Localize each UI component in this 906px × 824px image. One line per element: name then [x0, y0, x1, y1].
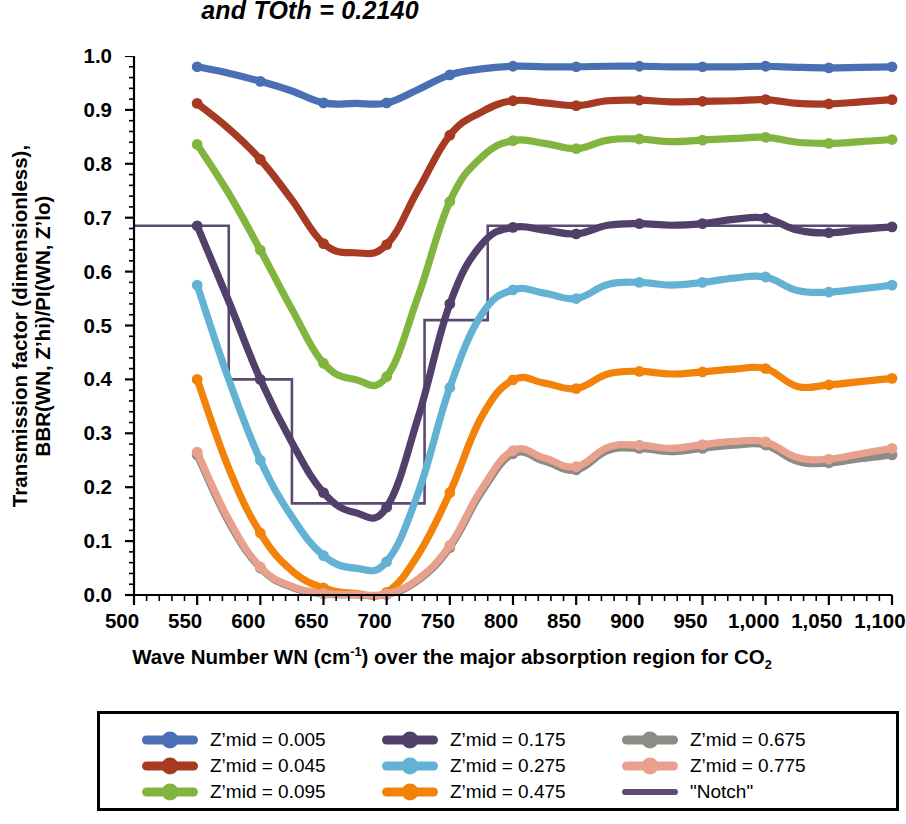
series-marker	[887, 221, 898, 232]
series-marker	[760, 437, 771, 448]
series-marker	[192, 447, 203, 458]
legend-item[interactable]: Z’mid = 0.095	[142, 780, 382, 804]
series-marker	[571, 383, 582, 394]
x-tick-label: 850	[547, 609, 581, 633]
series-marker	[381, 371, 392, 382]
x-tick-label: 1,100	[854, 609, 905, 633]
legend-label: Z’mid = 0.775	[690, 755, 806, 777]
x-tick-label: 650	[294, 609, 328, 633]
series-marker	[192, 61, 203, 72]
series-line-notch	[134, 226, 892, 504]
series-marker	[571, 61, 582, 72]
y-tick-label: 0.1	[60, 529, 112, 553]
series-marker	[760, 363, 771, 374]
series-marker	[760, 94, 771, 105]
legend-column: Z’mid = 0.175Z’mid = 0.275Z’mid = 0.475	[382, 728, 622, 806]
series-marker	[192, 139, 203, 150]
x-tick-label: 600	[231, 609, 265, 633]
series-marker	[760, 61, 771, 72]
series-marker	[381, 556, 392, 567]
series-marker	[508, 95, 519, 106]
legend-swatch	[622, 729, 678, 751]
y-tick-label: 0.0	[60, 583, 112, 607]
series-marker	[192, 280, 203, 291]
series-marker	[697, 366, 708, 377]
legend-marker-icon	[162, 732, 179, 749]
x-tick-label: 500	[105, 609, 139, 633]
series-marker	[571, 143, 582, 154]
series-marker	[571, 100, 582, 111]
chart-title: and TOth = 0.2140	[0, 0, 620, 25]
legend-item[interactable]: "Notch"	[622, 780, 862, 804]
series-marker	[823, 379, 834, 390]
legend-columns: Z’mid = 0.005Z’mid = 0.045Z’mid = 0.095Z…	[142, 728, 862, 806]
legend: Z’mid = 0.005Z’mid = 0.045Z’mid = 0.095Z…	[97, 711, 899, 811]
legend-marker-icon	[402, 758, 419, 775]
legend-marker-icon	[162, 758, 179, 775]
y-tick-label: 0.5	[60, 314, 112, 338]
legend-item[interactable]: Z’mid = 0.005	[142, 728, 382, 752]
series-marker	[444, 69, 455, 80]
x-tick-label: 950	[673, 609, 707, 633]
series-marker	[697, 218, 708, 229]
legend-marker-icon	[402, 732, 419, 749]
x-axis-title: Wave Number WN (cm-1) over the major abs…	[0, 644, 904, 672]
legend-swatch	[382, 781, 438, 803]
legend-swatch	[142, 729, 198, 751]
legend-label: "Notch"	[690, 781, 753, 803]
series-marker	[255, 245, 266, 256]
series-group	[192, 132, 898, 386]
x-axis-title-mid: ) over the major absorption region for C…	[361, 645, 764, 668]
legend-label: Z’mid = 0.475	[450, 781, 566, 803]
y-tick-label: 0.7	[60, 206, 112, 230]
y-tick-label: 0.4	[60, 367, 112, 391]
y-axis-title-line2: BBR(WN, Z’hi)/PI(WN, Z’lo)	[32, 145, 55, 507]
series-marker	[381, 502, 392, 513]
x-tick-label: 1,050	[791, 609, 842, 633]
series-marker	[887, 443, 898, 454]
y-tick-label: 0.3	[60, 421, 112, 445]
legend-item[interactable]: Z’mid = 0.775	[622, 754, 862, 778]
series-marker	[255, 528, 266, 539]
series-marker	[255, 562, 266, 573]
series-marker	[318, 238, 329, 249]
legend-item[interactable]: Z’mid = 0.275	[382, 754, 622, 778]
series-marker	[634, 366, 645, 377]
series-marker	[508, 445, 519, 456]
series-line	[197, 137, 892, 385]
series-marker	[192, 220, 203, 231]
series-marker	[697, 135, 708, 146]
legend-line-icon	[622, 789, 678, 795]
series-marker	[255, 76, 266, 87]
series-marker	[508, 285, 519, 296]
x-tick-label: 800	[484, 609, 518, 633]
series-marker	[381, 97, 392, 108]
series-marker	[760, 272, 771, 283]
y-tick-label: 0.6	[60, 260, 112, 284]
y-tick-label: 0.9	[60, 98, 112, 122]
series-marker	[887, 134, 898, 145]
x-tick-label: 700	[358, 609, 392, 633]
y-tick-label: 0.2	[60, 475, 112, 499]
x-tick-label: 1,000	[728, 609, 779, 633]
legend-swatch	[142, 755, 198, 777]
series-marker	[192, 98, 203, 109]
legend-item[interactable]: Z’mid = 0.675	[622, 728, 862, 752]
legend-swatch	[142, 781, 198, 803]
series-marker	[697, 61, 708, 72]
legend-item[interactable]: Z’mid = 0.475	[382, 780, 622, 804]
legend-label: Z’mid = 0.275	[450, 755, 566, 777]
series-marker	[887, 61, 898, 72]
series-line	[197, 217, 892, 518]
series-line	[197, 66, 892, 104]
legend-swatch	[382, 755, 438, 777]
legend-swatch	[382, 729, 438, 751]
legend-item[interactable]: Z’mid = 0.175	[382, 728, 622, 752]
series-marker	[571, 461, 582, 472]
legend-item[interactable]: Z’mid = 0.045	[142, 754, 382, 778]
series-marker	[697, 439, 708, 450]
series-marker	[508, 222, 519, 233]
series-marker	[255, 374, 266, 385]
y-axis-title: Transmission factor (dimensionless), BBR…	[2, 56, 62, 596]
series-marker	[887, 280, 898, 291]
